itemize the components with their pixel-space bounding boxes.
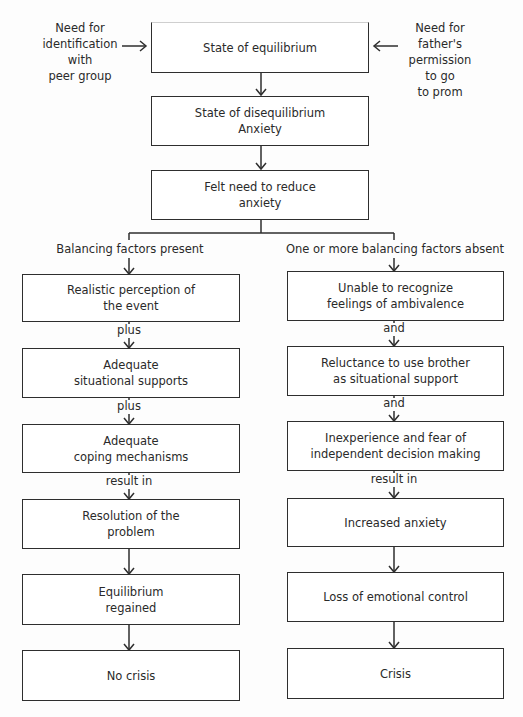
box-text: Adequate bbox=[103, 357, 158, 373]
box-text: problem bbox=[107, 524, 155, 540]
box-situational-supports: Adequate situational supports bbox=[22, 348, 240, 398]
box-text: Resolution of the bbox=[82, 508, 179, 524]
box-state-of-disequilibrium: State of disequilibrium Anxiety bbox=[151, 96, 369, 146]
flowchart-canvas: Need for identification with peer group … bbox=[0, 0, 523, 717]
box-text: State of equilibrium bbox=[203, 40, 317, 56]
box-text: the event bbox=[103, 298, 158, 314]
box-coping-mechanisms: Adequate coping mechanisms bbox=[22, 424, 240, 473]
box-text: Adequate bbox=[103, 433, 158, 449]
box-text: Unable to recognize bbox=[338, 280, 453, 296]
box-text: anxiety bbox=[239, 195, 282, 211]
box-text: No crisis bbox=[107, 668, 156, 684]
box-text: as situational support bbox=[333, 371, 458, 387]
input-text: peer group bbox=[40, 68, 120, 84]
box-text: State of disequilibrium bbox=[195, 105, 325, 121]
connector-label: plus bbox=[109, 398, 149, 414]
input-text: to prom bbox=[400, 84, 480, 100]
box-text: independent decision making bbox=[310, 446, 480, 462]
branch-label-absent: One or more balancing factors absent bbox=[285, 241, 505, 257]
input-peer-identification: Need for identification with peer group bbox=[40, 20, 120, 84]
connector-label: and bbox=[374, 395, 414, 411]
box-text: Equilibrium bbox=[98, 584, 163, 600]
connector-label: and bbox=[374, 320, 414, 336]
input-text: Need for bbox=[40, 20, 120, 36]
box-text: Loss of emotional control bbox=[323, 589, 468, 605]
box-increased-anxiety: Increased anxiety bbox=[287, 498, 504, 547]
box-text: feelings of ambivalence bbox=[327, 296, 464, 312]
box-text: Crisis bbox=[380, 666, 411, 682]
input-text: with bbox=[40, 52, 120, 68]
input-text: permission bbox=[400, 52, 480, 68]
box-text: Inexperience and fear of bbox=[325, 430, 466, 446]
box-resolution: Resolution of the problem bbox=[22, 499, 240, 549]
box-text: Anxiety bbox=[238, 121, 282, 137]
box-text: Felt need to reduce bbox=[204, 179, 316, 195]
box-text: regained bbox=[106, 600, 157, 616]
box-realistic-perception: Realistic perception of the event bbox=[22, 274, 240, 322]
box-state-of-equilibrium: State of equilibrium bbox=[151, 22, 369, 73]
box-felt-need: Felt need to reduce anxiety bbox=[151, 170, 369, 220]
connector-label: result in bbox=[364, 471, 424, 487]
box-text: Reluctance to use brother bbox=[321, 355, 470, 371]
input-text: father's bbox=[400, 36, 480, 52]
box-no-crisis: No crisis bbox=[22, 650, 240, 701]
input-text: to go bbox=[400, 68, 480, 84]
box-inexperience-fear: Inexperience and fear of independent dec… bbox=[287, 421, 504, 471]
box-text: situational supports bbox=[74, 373, 188, 389]
branch-label-present: Balancing factors present bbox=[30, 241, 230, 257]
input-text: identification bbox=[40, 36, 120, 52]
box-text: Increased anxiety bbox=[344, 515, 446, 531]
box-text: Realistic perception of bbox=[67, 282, 195, 298]
connector-label: plus bbox=[109, 322, 149, 338]
input-text: Need for bbox=[400, 20, 480, 36]
input-father-permission: Need for father's permission to go to pr… bbox=[400, 20, 480, 100]
box-text: coping mechanisms bbox=[74, 449, 189, 465]
box-crisis: Crisis bbox=[287, 648, 504, 699]
box-unable-to-recognize: Unable to recognize feelings of ambivale… bbox=[287, 271, 504, 321]
box-reluctance-brother: Reluctance to use brother as situational… bbox=[287, 346, 504, 396]
connector-label: result in bbox=[99, 473, 159, 489]
box-equilibrium-regained: Equilibrium regained bbox=[22, 574, 240, 625]
box-loss-of-control: Loss of emotional control bbox=[287, 572, 504, 622]
